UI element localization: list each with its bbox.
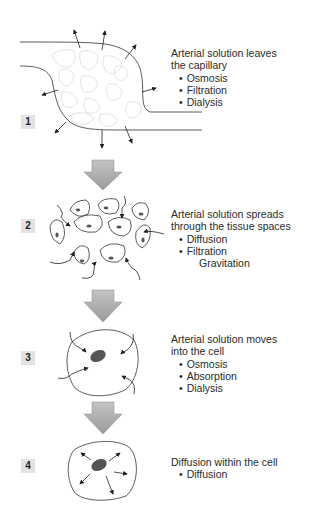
tissue-cells [50,199,150,264]
step-4-title: Diffusion within the cell [171,456,278,468]
cell-step3 [58,330,138,396]
step-2-process: Diffusion [171,233,291,245]
step-1-description: Arterial solution leaves the capillary O… [171,47,277,108]
step-1-title: the capillary [171,59,277,71]
step-3-title: Arterial solution moves [171,333,277,345]
flow-arrow-1 [84,160,122,190]
step-3-description: Arterial solution moves into the cell Os… [171,333,277,394]
step-2-description: Arterial solution spreads through the ti… [171,208,291,269]
nucleus [88,348,107,365]
cell-step4 [68,441,136,500]
nucleus [89,457,108,474]
step-2-process: Filtration [171,245,291,257]
step-2-title: through the tissue spaces [171,220,291,232]
step-1-process: Dialysis [171,96,277,108]
step-2-process-extra: Gravitation [171,257,291,269]
step-badge-1: 1 [21,115,35,129]
step-1-title: Arterial solution leaves [171,47,277,59]
step-1-process: Filtration [171,84,277,96]
step-4-description: Diffusion within the cell Diffusion [171,456,278,481]
step-1-process: Osmosis [171,72,277,84]
red-blood-cells [52,50,142,127]
step-badge-4: 4 [21,459,35,473]
flow-arrow-2 [84,290,122,322]
step-3-title: into the cell [171,345,277,357]
step-badge-2: 2 [21,219,35,233]
step-3-process: Osmosis [171,358,277,370]
step-3-process: Dialysis [171,382,277,394]
flow-arrow-3 [84,402,122,434]
cell-nuclei [55,207,144,263]
step-4-process: Diffusion [171,468,278,480]
step-badge-3: 3 [21,351,35,365]
step-3-process: Absorption [171,370,277,382]
step-2-title: Arterial solution spreads [171,208,291,220]
